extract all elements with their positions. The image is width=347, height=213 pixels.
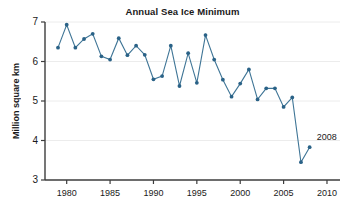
y-tick-label: 3 [32,174,38,185]
annotations: 2008 [317,132,337,142]
x-axis-ticks: 1980198519901995200020052010 [57,180,337,198]
y-axis-ticks: 34567 [32,16,45,185]
data-point [56,46,60,50]
x-tick-label: 1990 [143,188,163,198]
plot-area: 34567 1980198519901995200020052010 2008 [0,0,347,213]
x-tick-label: 2000 [230,188,250,198]
data-point [91,32,95,36]
y-tick-label: 7 [32,16,38,27]
data-point [186,51,190,55]
data-point [73,46,77,50]
chart-figure: Annual Sea Ice Minimum Million square km… [0,0,347,213]
data-point [264,86,268,90]
x-tick-label: 1995 [187,188,207,198]
data-point [273,86,277,90]
data-point [178,84,182,88]
y-tick-label: 4 [32,135,38,146]
data-point [152,77,156,81]
data-point [247,68,251,72]
data-point [195,81,199,85]
data-point [117,36,121,40]
x-tick-label: 1985 [100,188,120,198]
data-point [256,98,260,102]
data-point [134,44,138,48]
data-point [82,37,86,41]
data-series-line [58,25,310,162]
data-point [238,82,242,86]
x-tick-label: 2005 [274,188,294,198]
data-point [230,95,234,99]
data-points [56,23,311,164]
data-point [65,23,69,27]
data-point [282,105,286,109]
data-point [169,44,173,48]
data-point [204,33,208,37]
y-tick-label: 5 [32,95,38,106]
data-point [100,54,104,58]
data-point [299,160,303,164]
x-tick-label: 2010 [317,188,337,198]
data-point-annotation: 2008 [317,132,337,142]
data-point [143,53,147,57]
y-tick-label: 6 [32,56,38,67]
data-point [308,145,312,149]
data-point [221,78,225,82]
data-point [126,53,130,57]
data-point [212,58,216,62]
data-point [108,58,112,62]
data-point [160,74,164,78]
x-tick-label: 1980 [57,188,77,198]
data-point [290,96,294,100]
